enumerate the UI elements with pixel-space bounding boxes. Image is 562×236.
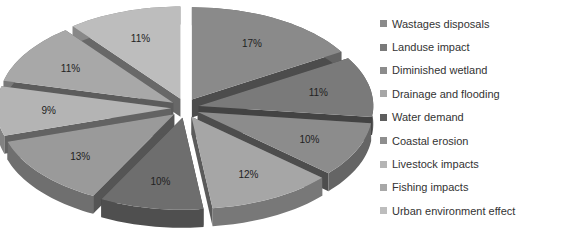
legend-item-coastal-erosion: Coastal erosion [380,129,562,152]
slice-label: 12% [238,169,258,180]
legend-swatch [380,161,387,168]
legend-swatch [380,90,387,97]
legend-swatch [380,207,387,214]
legend-item-livestock-impacts: Livestock impacts [380,152,562,175]
pie-chart: 11%17%11%11%9%10%13%12%10% [0,0,375,236]
legend-item-landuse-impact: Landuse impact [380,35,562,58]
legend-swatch [380,67,387,74]
legend-item-diminished-wetland: Diminished wetland [380,59,562,82]
slice-label: 11% [131,33,150,44]
legend-swatch [380,114,387,121]
legend-swatch [380,137,387,144]
slice-label: 9% [41,105,56,116]
slice-label: 10% [299,134,319,145]
legend-item-water-demand: Water demand [380,106,562,129]
legend-item-drainage-flooding: Drainage and flooding [380,82,562,105]
legend-item-fishing-impacts: Fishing impacts [380,176,562,199]
legend-swatch [380,184,387,191]
slice-label: 17% [242,38,262,49]
legend-swatch [380,20,387,27]
slice-label: 11% [309,87,328,98]
legend-item-urban-environment-effect: Urban environment effect [380,199,562,222]
slice-label: 10% [150,176,170,187]
slice-label: 11% [61,63,80,74]
slice-label: 13% [70,151,90,162]
legend: Wastages disposals Landuse impact Dimini… [380,12,562,223]
legend-item-wastages-disposals: Wastages disposals [380,12,562,35]
legend-swatch [380,44,387,51]
